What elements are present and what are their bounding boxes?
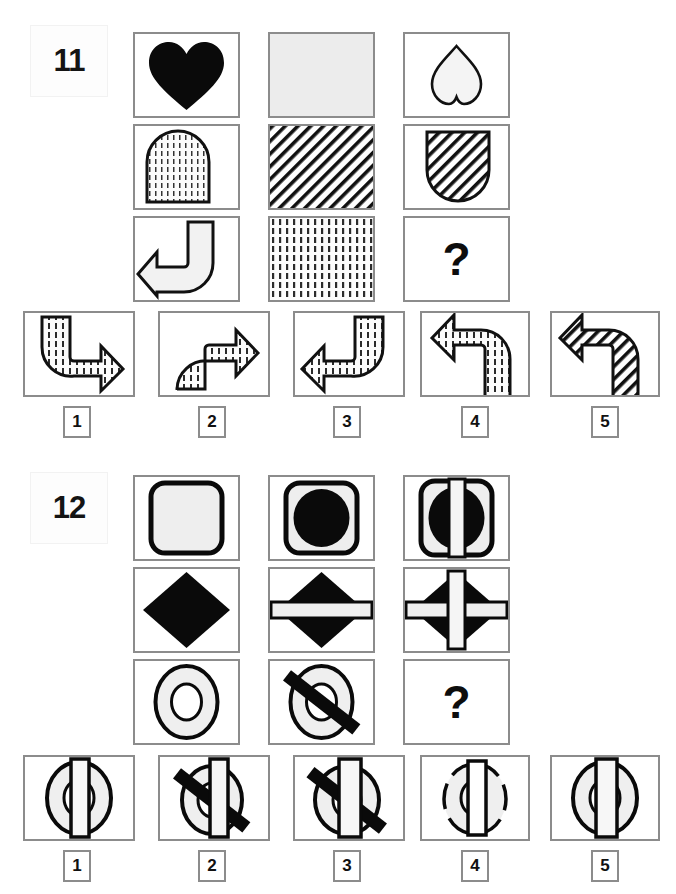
arch-dotted-icon — [135, 126, 238, 208]
matrix-cell-r3c3-question[interactable]: ? — [403, 216, 510, 302]
diamond-cross-bars-icon — [405, 569, 508, 651]
option-number-label: 1 — [72, 856, 81, 876]
option-number-11-5[interactable]: 5 — [591, 406, 619, 438]
option-number-11-3[interactable]: 3 — [333, 406, 361, 438]
matrix-cell-r3c1-ring-plain[interactable] — [133, 659, 240, 745]
option-box-11-3[interactable] — [293, 311, 405, 397]
option-number-label: 3 — [342, 856, 351, 876]
matrix-cell-r2c1-arch-dotted[interactable] — [133, 124, 240, 210]
ring-slash-vbar-narrow-icon — [160, 757, 268, 839]
arrow-up-left-hatch-icon — [552, 313, 658, 395]
option-box-11-4[interactable] — [420, 311, 530, 397]
square-diagonal-hatch-icon — [270, 126, 374, 209]
ring-slash-icon — [270, 661, 373, 743]
option-number-label: 4 — [470, 412, 479, 432]
matrix-cell-r1c1-rounded-square-empty[interactable] — [133, 475, 240, 561]
arrow-curved-left-plain-icon — [135, 218, 238, 300]
ring-plain-icon — [135, 661, 238, 743]
option-number-label: 2 — [207, 412, 216, 432]
matrix-cell-r1c3-rounded-square-circle-vbar[interactable] — [403, 475, 510, 561]
question-number-11: 11 — [30, 25, 108, 97]
option-box-12-5[interactable] — [550, 755, 660, 841]
option-number-12-5[interactable]: 5 — [591, 850, 619, 882]
heart-outline-icon — [405, 34, 508, 116]
matrix-cell-r3c1-arrow-curved-left-plain[interactable] — [133, 216, 240, 302]
diamond-solid-icon — [135, 569, 238, 651]
option-number-label: 4 — [470, 856, 479, 876]
option-number-label: 5 — [600, 856, 609, 876]
matrix-cell-r2c1-diamond-solid[interactable] — [133, 567, 240, 653]
option-number-12-1[interactable]: 1 — [63, 850, 91, 882]
option-box-12-4[interactable] — [420, 755, 530, 841]
option-box-11-1[interactable] — [23, 311, 135, 397]
ring-slash-vbar-wide-icon — [295, 757, 403, 839]
ring-broken-vbar-icon — [422, 757, 528, 839]
matrix-cell-r1c2-square-plain-gray[interactable] — [268, 32, 375, 118]
ring-vbar-wide-icon — [552, 757, 658, 839]
matrix-cell-r1c1-heart-solid[interactable] — [133, 32, 240, 118]
question-mark-12: ? — [405, 661, 508, 743]
option-number-12-3[interactable]: 3 — [333, 850, 361, 882]
option-box-12-1[interactable] — [23, 755, 135, 841]
option-number-label: 1 — [72, 412, 81, 432]
matrix-cell-r3c2-ring-slash[interactable] — [268, 659, 375, 745]
arrow-down-left-dash-icon — [295, 313, 403, 395]
option-box-12-3[interactable] — [293, 755, 405, 841]
option-box-11-5[interactable] — [550, 311, 660, 397]
option-number-label: 5 — [600, 412, 609, 432]
arch-inverted-hatch-icon — [405, 126, 508, 208]
square-vertical-dash-icon — [270, 218, 374, 301]
question-mark-11: ? — [405, 218, 508, 300]
puzzle-11: 11 — [0, 0, 676, 450]
arrow-down-right-dash-icon — [25, 313, 133, 395]
matrix-cell-r1c2-rounded-square-circle[interactable] — [268, 475, 375, 561]
option-number-label: 3 — [342, 412, 351, 432]
ring-vbar-icon — [25, 757, 133, 839]
rounded-square-circle-vbar-icon — [405, 477, 508, 559]
question-number-12: 12 — [30, 472, 108, 544]
arrow-up-left-dash-icon — [422, 313, 528, 395]
matrix-cell-r2c3-diamond-cross-bars[interactable] — [403, 567, 510, 653]
puzzle-12: 12 — [0, 447, 676, 894]
option-number-11-4[interactable]: 4 — [461, 406, 489, 438]
diamond-hbar-icon — [270, 569, 373, 651]
arrow-up-right-dash-icon — [160, 313, 268, 395]
matrix-cell-r2c2-diamond-hbar[interactable] — [268, 567, 375, 653]
rounded-square-circle-icon — [270, 477, 373, 559]
matrix-cell-r1c3-heart-outline[interactable] — [403, 32, 510, 118]
rounded-square-empty-icon — [135, 477, 238, 559]
matrix-cell-r3c3-question[interactable]: ? — [403, 659, 510, 745]
option-number-12-2[interactable]: 2 — [198, 850, 226, 882]
option-number-11-2[interactable]: 2 — [198, 406, 226, 438]
matrix-cell-r2c3-arch-inverted-hatch[interactable] — [403, 124, 510, 210]
option-box-12-2[interactable] — [158, 755, 270, 841]
option-number-label: 2 — [207, 856, 216, 876]
matrix-cell-r3c2-square-vertical-dash[interactable] — [268, 216, 375, 302]
matrix-cell-r2c2-square-diagonal-hatch[interactable] — [268, 124, 375, 210]
option-box-11-2[interactable] — [158, 311, 270, 397]
option-number-12-4[interactable]: 4 — [461, 850, 489, 882]
heart-solid-icon — [135, 34, 238, 116]
option-number-11-1[interactable]: 1 — [63, 406, 91, 438]
